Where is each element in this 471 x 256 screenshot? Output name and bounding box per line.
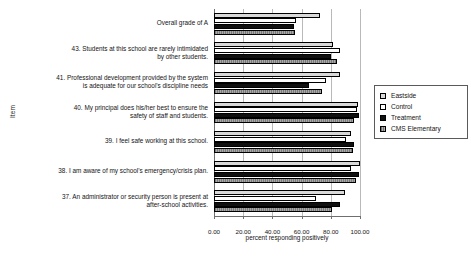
bar-control — [214, 137, 346, 142]
bar-cms-elementary — [214, 148, 353, 153]
bar-eastside — [214, 102, 358, 107]
category-label-line: is adequate for our school's discipline … — [18, 82, 208, 90]
category-label: Overall grade of A — [18, 19, 208, 27]
y-axis-title: Item — [9, 92, 16, 132]
bar-group — [214, 13, 360, 35]
bar-treatment — [214, 172, 359, 177]
gridline — [360, 9, 361, 216]
x-axis-tick — [360, 216, 361, 219]
category-label-line: 40. My principal does his/her best to en… — [18, 104, 208, 112]
bar-cms-elementary — [214, 178, 356, 183]
category-label: 38. I am aware of my school's emergency/… — [18, 167, 208, 175]
category-label-line: safety of staff and students. — [18, 112, 208, 120]
bar-cms-elementary — [214, 118, 354, 123]
bar-treatment — [214, 24, 294, 29]
category-label-line: 39. I feel safe working at this school. — [18, 137, 208, 145]
bar-treatment — [214, 54, 331, 59]
category-label-line: 37. An administrator or security person … — [18, 193, 208, 201]
bar-treatment — [214, 202, 340, 207]
category-label: 40. My principal does his/her best to en… — [18, 104, 208, 120]
bar-control — [214, 107, 357, 112]
legend-item-treatment: Treatment — [380, 112, 464, 123]
category-label-line: 41. Professional development provided by… — [18, 74, 208, 82]
legend-item-cms: CMS Elementary — [380, 123, 464, 134]
bar-eastside — [214, 161, 360, 166]
bar-eastside — [214, 72, 340, 77]
legend-swatch-icon — [380, 115, 386, 121]
x-axis-title: percent responding positively — [214, 234, 360, 241]
x-axis-tick — [243, 216, 244, 219]
bar-group — [214, 190, 360, 212]
legend-item-control: Control — [380, 101, 464, 112]
bar-group — [214, 161, 360, 183]
legend-label: Eastside — [391, 92, 416, 99]
x-axis-line — [214, 216, 361, 217]
bar-cms-elementary — [214, 30, 295, 35]
bar-eastside — [214, 42, 333, 47]
bar-treatment — [214, 83, 309, 88]
category-label-line: by other students. — [18, 53, 208, 61]
bar-control — [214, 166, 351, 171]
category-label-line: 38. I am aware of my school's emergency/… — [18, 167, 208, 175]
x-axis-tick — [331, 216, 332, 219]
legend-swatch-icon — [380, 93, 386, 99]
x-axis-tick — [302, 216, 303, 219]
bar-group — [214, 42, 360, 64]
plot-area: 0.0020.0040.0060.0080.00100.00 — [214, 9, 360, 216]
legend-swatch-icon — [380, 104, 386, 110]
bar-control — [214, 48, 340, 53]
category-label: 39. I feel safe working at this school. — [18, 137, 208, 145]
category-label-line: 43. Students at this school are rarely i… — [18, 45, 208, 53]
bar-group — [214, 72, 360, 94]
bar-treatment — [214, 142, 354, 147]
x-axis-tick — [272, 216, 273, 219]
legend-label: Treatment — [391, 114, 421, 121]
bar-control — [214, 18, 296, 23]
bar-group — [214, 102, 360, 124]
legend-swatch-icon — [380, 126, 386, 132]
bar-cms-elementary — [214, 89, 322, 94]
legend-item-eastside: Eastside — [380, 90, 464, 101]
bar-cms-elementary — [214, 59, 337, 64]
bar-chart: Item 0.0020.0040.0060.0080.00100.00 perc… — [0, 0, 471, 256]
bar-eastside — [214, 13, 320, 18]
category-label-line: Overall grade of A — [18, 19, 208, 27]
bar-eastside — [214, 190, 345, 195]
category-label: 37. An administrator or security person … — [18, 193, 208, 209]
bar-eastside — [214, 131, 351, 136]
legend-label: CMS Elementary — [391, 125, 441, 132]
bar-control — [214, 78, 326, 83]
bar-control — [214, 196, 316, 201]
category-label-line: after-school activities. — [18, 201, 208, 209]
chart-legend: EastsideControlTreatmentCMS Elementary — [374, 85, 468, 139]
bar-cms-elementary — [214, 207, 332, 212]
bar-treatment — [214, 113, 359, 118]
x-axis-tick — [214, 216, 215, 219]
category-label: 43. Students at this school are rarely i… — [18, 45, 208, 61]
category-label: 41. Professional development provided by… — [18, 74, 208, 90]
legend-label: Control — [391, 103, 412, 110]
bar-group — [214, 131, 360, 153]
